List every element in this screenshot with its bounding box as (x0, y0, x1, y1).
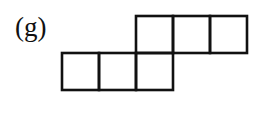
net-square-2 (173, 16, 210, 53)
net-square-5 (99, 53, 136, 90)
net-square-3 (210, 16, 247, 53)
net-square-4 (62, 53, 99, 90)
net-square-1 (136, 16, 173, 53)
net-square-6 (136, 53, 173, 90)
square-net-diagram (0, 0, 272, 113)
